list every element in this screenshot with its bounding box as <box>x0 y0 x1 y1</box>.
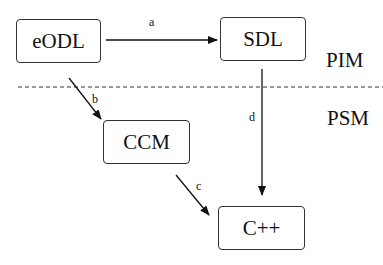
region-psm-label: PSM <box>327 106 369 131</box>
edge-b-label: b <box>92 92 98 107</box>
edge-c-label: c <box>196 179 201 194</box>
node-eodl-label: eODL <box>32 29 84 54</box>
edge-d-label: d <box>249 110 255 125</box>
node-ccm-label: CCM <box>123 130 170 155</box>
region-pim-label: PIM <box>326 48 363 73</box>
node-eodl: eODL <box>16 19 101 63</box>
node-cpp-label: C++ <box>243 216 281 241</box>
edge-c-arrow <box>176 175 209 215</box>
node-cpp: C++ <box>218 206 305 250</box>
edge-a-label: a <box>149 15 154 30</box>
node-sdl: SDL <box>220 17 306 61</box>
node-sdl-label: SDL <box>243 27 283 52</box>
node-ccm: CCM <box>103 120 190 164</box>
